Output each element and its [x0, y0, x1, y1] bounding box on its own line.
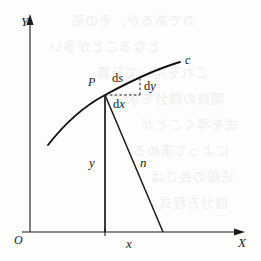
axes-group	[22, 14, 245, 236]
point-label-p: P	[88, 76, 95, 88]
normal-segment-n	[105, 95, 163, 232]
y-axis-label: Y	[21, 15, 28, 28]
ordinate-label-y: y	[89, 156, 95, 169]
dx-label: dx	[113, 98, 125, 111]
x-axis-label: X	[238, 236, 246, 249]
arc-element-label-ds: ds	[112, 72, 123, 85]
diagram-canvas	[0, 0, 261, 261]
normal-label-n: n	[140, 156, 147, 169]
dy-label: dy	[144, 80, 156, 93]
abscissa-label-x: x	[126, 237, 132, 250]
curve-label-c: c	[185, 54, 190, 66]
math-figure: のであるが、その形となることが多いこれを用いて計算関数の微分を求式を導くことがに…	[0, 0, 261, 261]
origin-label: O	[14, 234, 23, 246]
